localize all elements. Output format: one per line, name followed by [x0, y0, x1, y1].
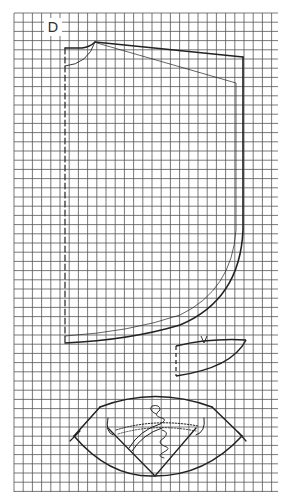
small-facing-piece — [176, 336, 246, 376]
graph-paper-grid — [14, 13, 278, 492]
pattern-diagram: D — [0, 0, 287, 502]
embroidery-band — [116, 423, 198, 430]
figure-label: D — [44, 18, 62, 36]
pattern-svg — [0, 0, 287, 502]
